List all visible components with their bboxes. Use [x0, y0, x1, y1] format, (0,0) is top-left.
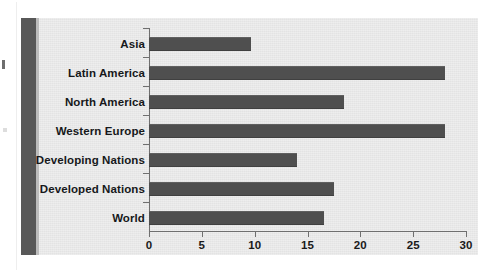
bar-row: [149, 37, 251, 66]
x-axis-tick-label: 10: [248, 239, 261, 251]
category-label-developing-nations: Developing Nations: [36, 153, 145, 167]
category-label-western-europe: Western Europe: [56, 124, 145, 138]
bar-world: [149, 211, 324, 225]
bar-north-america: [149, 95, 344, 109]
x-axis-tick: [202, 231, 203, 237]
x-axis-tick-label: 20: [354, 239, 367, 251]
bar-row: [149, 153, 297, 182]
bar-row: [149, 211, 324, 240]
x-axis-tick-label: 5: [199, 239, 206, 251]
category-label-world: World: [112, 211, 145, 225]
x-axis-tick-label: 30: [460, 239, 473, 251]
x-axis-tick: [308, 231, 309, 237]
scan-artifact: [2, 60, 5, 69]
x-axis-tick: [149, 231, 150, 237]
category-label-latin-america: Latin America: [68, 66, 145, 80]
bar-asia: [149, 37, 251, 51]
figure: AsiaLatin AmericaNorth AmericaWestern Eu…: [0, 0, 501, 272]
bar-western-europe: [149, 124, 445, 138]
binding-stripe: [21, 18, 36, 255]
x-axis-tick: [466, 231, 467, 237]
category-label-developed-nations: Developed Nations: [40, 182, 145, 196]
scan-artifact: [16, 2, 17, 270]
bar-developing-nations: [149, 153, 297, 167]
x-axis-tick-label: 15: [301, 239, 314, 251]
category-label-north-america: North America: [65, 95, 145, 109]
y-axis-tick: [143, 28, 149, 29]
category-label-asia: Asia: [120, 37, 145, 51]
bar-row: [149, 124, 445, 153]
bar-latin-america: [149, 66, 445, 80]
bar-row: [149, 66, 445, 95]
x-axis-tick: [413, 231, 414, 237]
x-axis-tick: [360, 231, 361, 237]
bar-row: [149, 182, 334, 211]
x-axis-tick-label: 0: [146, 239, 153, 251]
x-axis-tick-label: 25: [407, 239, 420, 251]
scan-artifact: [3, 128, 7, 132]
bar-developed-nations: [149, 182, 334, 196]
x-axis-tick: [255, 231, 256, 237]
bar-row: [149, 95, 344, 124]
